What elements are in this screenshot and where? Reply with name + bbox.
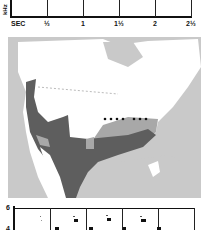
tick-label: 2	[153, 20, 157, 28]
tick-label: ½	[44, 20, 50, 28]
gridline	[83, 0, 84, 17]
bottom-sonogram: 6 4	[0, 202, 203, 230]
gridline	[50, 208, 51, 230]
x-axis	[10, 16, 192, 18]
y-axis	[10, 0, 12, 17]
y-axis	[13, 206, 15, 230]
gridline	[119, 0, 120, 17]
range-map	[8, 37, 201, 198]
song-note	[89, 227, 93, 230]
song-note	[140, 216, 142, 217]
song-note	[157, 227, 161, 230]
top-sonogram: kHz SEC ½ 1 1½ 2 2½	[0, 0, 203, 30]
y-tick-label: 6	[6, 204, 10, 212]
gridline	[194, 208, 195, 230]
song-note	[73, 216, 75, 217]
song-note	[41, 220, 42, 221]
gridline	[191, 0, 192, 17]
gridline	[155, 0, 156, 17]
song-note	[107, 218, 111, 221]
tick-label: 2½	[186, 20, 196, 28]
gridline	[86, 208, 87, 230]
song-note	[141, 219, 146, 222]
sec-label: SEC	[11, 20, 25, 28]
north-america-map	[8, 37, 201, 198]
y-tick-label: 4	[6, 225, 10, 230]
tick-label: 1½	[114, 20, 124, 28]
song-note	[123, 227, 126, 230]
song-note	[55, 227, 59, 230]
song-note	[74, 219, 78, 222]
tick-label: 1	[81, 20, 85, 28]
song-note	[40, 216, 41, 217]
song-note	[106, 215, 108, 216]
khz-axis-label: kHz	[2, 4, 8, 15]
gridline	[47, 0, 48, 17]
top-border	[14, 208, 195, 209]
